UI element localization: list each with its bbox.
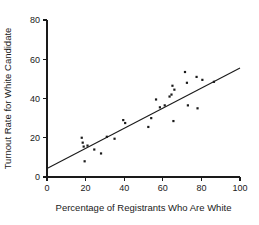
data-point-marker <box>155 98 157 100</box>
y-tick-label: 0 <box>35 172 40 182</box>
data-point-marker <box>171 85 173 87</box>
data-point-marker <box>213 81 215 83</box>
x-axis-title: Percentage of Registrants Who Are White <box>56 202 232 213</box>
data-point-marker <box>124 122 126 124</box>
data-point-marker <box>184 71 186 73</box>
data-point-marker <box>84 160 86 162</box>
data-point-marker <box>187 104 189 106</box>
x-tick-label: 20 <box>81 183 91 193</box>
data-point-marker <box>147 126 149 128</box>
data-point-marker <box>172 120 174 122</box>
axes-group: 020406080100020406080 <box>30 15 248 193</box>
data-point-marker <box>196 107 198 109</box>
data-point-marker <box>164 104 166 106</box>
data-point-marker <box>186 82 188 84</box>
scatter-plot-figure: 020406080100020406080 Percentage of Regi… <box>0 0 259 225</box>
regression-line-group <box>47 68 240 168</box>
data-point-marker <box>150 117 152 119</box>
data-point-marker <box>195 76 197 78</box>
data-point-marker <box>201 79 203 81</box>
y-tick-label: 40 <box>30 94 40 104</box>
x-tick-label: 40 <box>119 183 129 193</box>
y-axis-title: Turnout Rate for White Candidate <box>2 28 13 170</box>
data-point-marker <box>106 136 108 138</box>
data-point-marker <box>113 138 115 140</box>
x-tick-label: 100 <box>232 183 247 193</box>
y-tick-label: 60 <box>30 55 40 65</box>
data-point-marker <box>83 145 85 147</box>
data-point-marker <box>93 148 95 150</box>
y-tick-label: 80 <box>30 15 40 25</box>
plot-canvas: 020406080100020406080 Percentage of Regi… <box>0 0 259 225</box>
data-point-marker <box>168 95 170 97</box>
data-point-marker <box>86 145 88 147</box>
data-point-marker <box>173 89 175 91</box>
data-point-marker <box>82 142 84 144</box>
data-point-marker <box>100 152 102 154</box>
data-point-marker <box>81 137 83 139</box>
x-tick-label: 0 <box>44 183 49 193</box>
x-tick-label: 60 <box>158 183 168 193</box>
y-tick-label: 20 <box>30 133 40 143</box>
x-tick-label: 80 <box>196 183 206 193</box>
data-point-marker <box>122 119 124 121</box>
data-point-marker <box>170 93 172 95</box>
regression-line <box>47 68 240 168</box>
data-point-marker <box>159 106 161 108</box>
